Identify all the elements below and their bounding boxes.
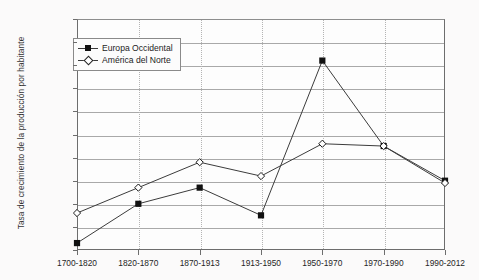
data-point-europa bbox=[135, 201, 141, 207]
data-point-europa bbox=[258, 212, 264, 218]
x-axis-tick-label: 1913-1950 bbox=[241, 258, 281, 268]
series-layer bbox=[0, 0, 479, 280]
data-point-europa bbox=[319, 57, 325, 63]
x-axis-tick-mark bbox=[200, 250, 201, 255]
data-point-europa bbox=[197, 185, 203, 191]
x-axis-tick-label: 1870-1913 bbox=[180, 258, 220, 268]
y-axis-tick-mark bbox=[73, 88, 77, 89]
growth-rate-line-chart: Tasa de crecimiento de la producción por… bbox=[0, 0, 479, 280]
y-axis-tick-mark bbox=[73, 135, 77, 136]
x-axis-tick-mark bbox=[77, 250, 78, 255]
x-axis-tick-mark bbox=[261, 250, 262, 255]
open-diamond-marker-icon bbox=[78, 55, 98, 65]
y-axis-tick-mark bbox=[73, 42, 77, 43]
legend: Europa Occidental América del Norte bbox=[73, 38, 181, 71]
data-point-america bbox=[196, 159, 203, 166]
legend-item-america: América del Norte bbox=[78, 54, 173, 66]
y-axis-tick-mark bbox=[73, 227, 77, 228]
filled-square-marker-icon bbox=[78, 43, 98, 53]
x-axis-tick-label: 1990-2012 bbox=[425, 258, 465, 268]
y-axis-tick-mark bbox=[73, 204, 77, 205]
y-axis-tick-mark bbox=[73, 19, 77, 20]
y-axis-tick-mark bbox=[73, 111, 77, 112]
legend-label-america: América del Norte bbox=[102, 55, 171, 65]
x-axis-tick-label: 1820-1870 bbox=[118, 258, 158, 268]
x-axis-tick-label: 1950-1970 bbox=[302, 258, 342, 268]
x-axis-tick-mark bbox=[322, 250, 323, 255]
data-point-america bbox=[73, 209, 80, 216]
data-point-america bbox=[135, 184, 142, 191]
data-point-america bbox=[319, 140, 326, 147]
y-axis-tick-mark bbox=[73, 181, 77, 182]
x-axis-tick-mark bbox=[445, 250, 446, 255]
y-axis-tick-mark bbox=[73, 65, 77, 66]
x-axis-tick-label: 1700-1820 bbox=[57, 258, 97, 268]
legend-label-europa: Europa Occidental bbox=[102, 43, 173, 53]
data-point-america bbox=[257, 172, 264, 179]
x-axis-tick-label: 1970-1990 bbox=[364, 258, 404, 268]
x-axis-tick-mark bbox=[384, 250, 385, 255]
y-axis-tick-mark bbox=[73, 158, 77, 159]
data-point-europa bbox=[74, 240, 80, 246]
x-axis-tick-mark bbox=[138, 250, 139, 255]
legend-item-europa: Europa Occidental bbox=[78, 42, 173, 54]
